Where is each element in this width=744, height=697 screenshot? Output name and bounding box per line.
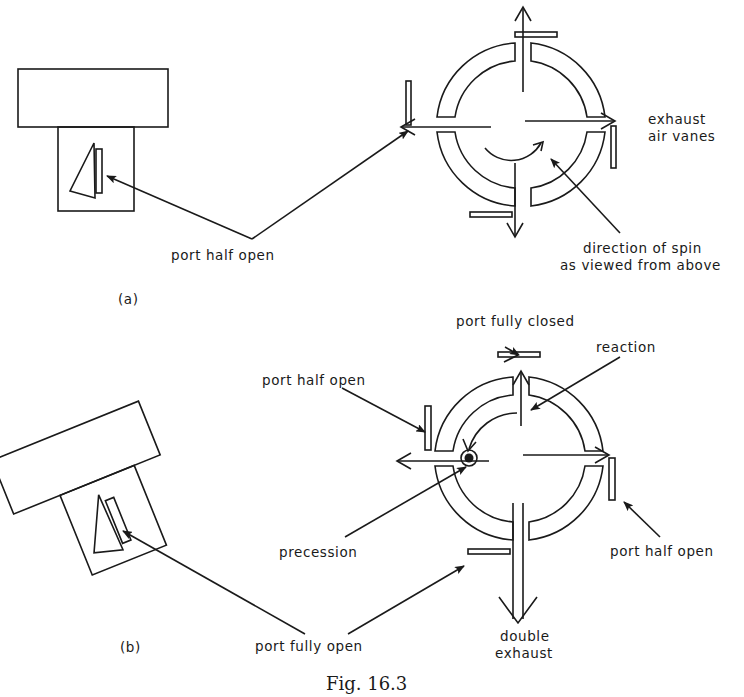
label-reaction: reaction [596, 339, 656, 355]
label-double: double [500, 628, 550, 644]
label-as-viewed-from-above: as viewed from above [560, 257, 721, 273]
label-exhaust: exhaust [648, 111, 706, 127]
figure-caption: Fig. 16.3 [326, 673, 407, 694]
device-side-view-a [18, 69, 168, 211]
port-flap-icon [70, 143, 95, 198]
label-port-fully-closed: port fully closed [456, 313, 575, 329]
label-exhaust-b: exhaust [495, 645, 553, 661]
double-exhaust-arrow-icon [499, 597, 537, 623]
panel-a-label: (a) [118, 291, 139, 307]
label-direction-of-spin: direction of spin [583, 240, 702, 256]
label-port-fully-open: port fully open [255, 638, 363, 654]
label-air-vanes: air vanes [648, 128, 715, 144]
label-port-half-open-a: port half open [171, 247, 275, 263]
panel-b-label: (b) [120, 639, 141, 655]
figure-canvas: port half open exhaust air vanes directi… [0, 0, 744, 697]
panel-b: port fully closed reaction port half ope… [0, 313, 714, 661]
label-port-half-open-left: port half open [262, 372, 366, 388]
label-precession: precession [279, 544, 358, 560]
device-side-view-b [0, 401, 192, 594]
panel-a: port half open exhaust air vanes directi… [18, 7, 721, 307]
rotor-top-view-a [401, 7, 616, 237]
label-port-half-open-right: port half open [610, 543, 714, 559]
